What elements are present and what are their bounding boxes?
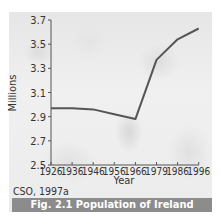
y-tick-label: 3.1 — [30, 87, 46, 100]
x-tick-label: 1986 — [166, 166, 189, 177]
x-axis-title: Year — [113, 174, 136, 187]
x-tick-label: 1996 — [187, 166, 210, 177]
x-tick-label: 1926 — [40, 166, 63, 177]
y-tick-label: 3.3 — [30, 62, 46, 75]
y-tick-label: 3.7 — [30, 14, 46, 27]
x-tick-label: 1946 — [82, 166, 105, 177]
x-tick-label: 1979 — [145, 166, 168, 177]
y-tick-label: 2.7 — [30, 135, 46, 148]
y-axis-title: Millions — [6, 74, 19, 111]
x-tick-label: 1936 — [61, 166, 84, 177]
y-tick-label: 3.5 — [30, 38, 46, 51]
y-tick-label: 2.9 — [30, 111, 46, 124]
source-citation: CSO, 1997a — [13, 185, 69, 197]
y-axis: 3.73.53.33.12.92.72.5 — [30, 14, 51, 172]
population-series-line — [51, 29, 199, 120]
figure-caption: Fig. 2.1 Population of Ireland — [12, 198, 212, 212]
